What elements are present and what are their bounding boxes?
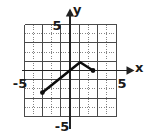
x-axis-label: x [135,60,144,75]
x-axis-tick-minus-5: -5 [13,76,27,91]
data-polyline [42,62,93,92]
y-axis-tick-5: 5 [52,18,61,33]
plot-svg: y x 5 -5 -5 5 [0,0,147,137]
data-endpoint-dot [40,90,45,95]
axis-lines [22,9,135,129]
data-endpoint-dot [91,68,96,73]
data-series-group [40,62,95,95]
x-axis-arrowhead [127,66,135,74]
x-axis-tick-5: 5 [117,76,126,91]
y-axis-label: y [73,2,82,17]
coordinate-plane-figure: y x 5 -5 -5 5 [0,0,147,137]
y-axis-tick-minus-5: -5 [55,119,69,134]
